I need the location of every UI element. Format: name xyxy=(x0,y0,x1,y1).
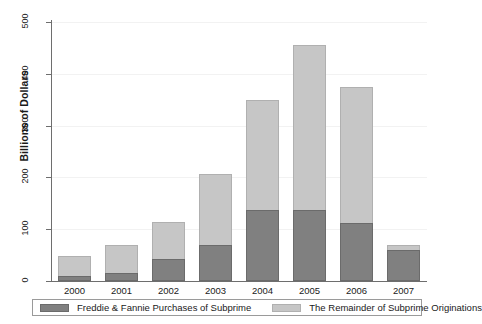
y-tick-label-0: 0 xyxy=(20,263,30,297)
bar-segment-freddie-fannie-2005[interactable] xyxy=(293,210,326,281)
bar-segment-freddie-fannie-2000[interactable] xyxy=(58,276,91,281)
plot-area xyxy=(51,20,427,282)
bar-segment-remainder-2002[interactable] xyxy=(152,222,185,259)
x-tick-label-2002: 2002 xyxy=(149,285,189,296)
bar-group-2006[interactable] xyxy=(340,20,373,282)
bar-segment-freddie-fannie-2004[interactable] xyxy=(246,210,279,281)
x-tick-label-2005: 2005 xyxy=(290,285,330,296)
y-tick-label-500: 500 xyxy=(20,4,30,38)
bar-group-2005[interactable] xyxy=(293,20,326,282)
bar-group-2003[interactable] xyxy=(199,20,232,282)
bar-segment-remainder-2001[interactable] xyxy=(105,245,138,273)
x-tick-label-2001: 2001 xyxy=(102,285,142,296)
legend-label-remainder: The Remainder of Subprime Originations xyxy=(309,302,482,313)
x-tick-label-2004: 2004 xyxy=(243,285,283,296)
bar-group-2002[interactable] xyxy=(152,20,185,282)
legend-entry-remainder: The Remainder of Subprime Originations xyxy=(265,300,482,315)
y-tick-label-100: 100 xyxy=(20,211,30,245)
bar-group-2004[interactable] xyxy=(246,20,279,282)
bar-segment-freddie-fannie-2003[interactable] xyxy=(199,245,232,281)
x-tick-label-2007: 2007 xyxy=(384,285,424,296)
bar-segment-remainder-2000[interactable] xyxy=(58,256,91,276)
legend-swatch-icon-dark xyxy=(40,304,69,312)
bar-segment-remainder-2007[interactable] xyxy=(387,245,420,250)
y-tick-label-200: 200 xyxy=(20,159,30,193)
y-tick-label-300: 300 xyxy=(20,108,30,142)
x-tick-label-2000: 2000 xyxy=(55,285,95,296)
bar-segment-freddie-fannie-2001[interactable] xyxy=(105,273,138,281)
bar-group-2007[interactable] xyxy=(387,20,420,282)
bar-segment-freddie-fannie-2006[interactable] xyxy=(340,223,373,281)
bar-segment-remainder-2003[interactable] xyxy=(199,174,232,245)
legend-swatch-icon-light xyxy=(272,304,301,312)
y-tick-label-400: 400 xyxy=(20,56,30,90)
legend-entry-freddie-fannie: Freddie & Fannie Purchases of Subprime xyxy=(33,300,251,315)
bar-group-2000[interactable] xyxy=(58,20,91,282)
bar-segment-remainder-2005[interactable] xyxy=(293,45,326,210)
x-tick-label-2006: 2006 xyxy=(337,285,377,296)
bar-group-2001[interactable] xyxy=(105,20,138,282)
bar-segment-freddie-fannie-2002[interactable] xyxy=(152,259,185,281)
chart-legend: Freddie & Fannie Purchases of Subprime T… xyxy=(32,299,422,316)
legend-label-freddie-fannie: Freddie & Fannie Purchases of Subprime xyxy=(77,302,251,313)
bar-segment-remainder-2004[interactable] xyxy=(246,100,279,210)
bars-container xyxy=(51,20,427,282)
bar-segment-remainder-2006[interactable] xyxy=(340,87,373,223)
bar-segment-freddie-fannie-2007[interactable] xyxy=(387,250,420,281)
x-tick-label-2003: 2003 xyxy=(196,285,236,296)
